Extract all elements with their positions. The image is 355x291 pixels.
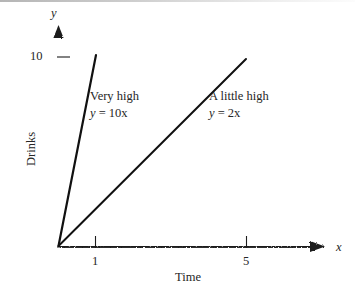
y-axis-tick-label-10: 10 <box>30 49 43 63</box>
annotation-very-high-label: Very high <box>90 89 139 103</box>
chart-figure: y 10 Drinks 1 5 x Time Very high y = 10x… <box>0 0 355 291</box>
chart-plot-area <box>0 0 355 291</box>
y-axis-variable-label: y <box>51 6 57 20</box>
annotation-a-little-high: A little high y = 2x <box>209 89 269 121</box>
y-axis-title: Drinks <box>24 132 38 166</box>
x-axis-tick-label-1: 1 <box>92 254 98 268</box>
x-axis-variable-label: x <box>336 240 342 254</box>
x-axis-arrowhead <box>310 241 325 252</box>
annotation-very-high-equation-rhs: = 10x <box>99 106 128 120</box>
annotation-very-high: Very high y = 10x <box>90 89 139 121</box>
x-axis-tick-label-5: 5 <box>243 254 249 268</box>
y-axis-arrowhead <box>53 25 63 38</box>
annotation-a-little-high-equation-rhs: = 2x <box>218 106 241 120</box>
annotation-a-little-high-equation: y = 2x <box>209 106 269 120</box>
line-a-little-high <box>59 59 247 246</box>
annotation-very-high-equation: y = 10x <box>90 106 139 120</box>
x-axis-title: Time <box>175 270 201 284</box>
annotation-a-little-high-label: A little high <box>209 89 269 103</box>
line-very-high <box>59 55 97 246</box>
